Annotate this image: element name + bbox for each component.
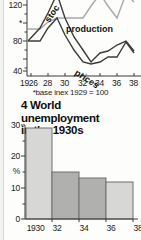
bar-chart-ytick-0: 0 (0, 214, 20, 224)
line-chart-ytick-40: 40 (0, 66, 22, 76)
bar-1932 (26, 128, 52, 219)
line-chart-xtick-34: 34 (95, 78, 104, 88)
bar-chart: 30 20 % 10 0 1930 32 34 36 38 (0, 118, 141, 240)
line-chart-ytick-80: 80 (0, 36, 22, 46)
line-chart-xtick-36: 36 (112, 78, 121, 88)
line-chart-footnote: *base inex 1929 = 100 (0, 88, 141, 97)
bar-chart-ytick-20: 20 (0, 151, 20, 161)
bar-chart-canvas (0, 118, 141, 240)
bar-chart-xtick-36: 36 (101, 223, 121, 233)
line-chart-xtick-28: 28 (43, 78, 52, 88)
bar-1934 (52, 172, 79, 219)
line-chart-xtick-38: 38 (129, 78, 138, 88)
bar-chart-xtick-38: 38 (128, 223, 141, 233)
line-chart-xtick-30: 30 (60, 78, 69, 88)
line-chart-xtick-1926: 1926 (20, 78, 38, 88)
bar-1936 (79, 178, 106, 219)
bar-chart-ytick-30: 30 (0, 120, 20, 130)
line-chart: 120 * 80 40 stoc production prices (0, 0, 141, 78)
bar-chart-xtick-32: 32 (47, 223, 67, 233)
line-chart-xtick-32: 32 (78, 78, 87, 88)
line-chart-ytick-120: 120 (0, 0, 22, 10)
bar-1938 (106, 182, 133, 219)
bar-chart-xtick-1930: 1930 (22, 223, 49, 233)
bar-chart-xtick-34: 34 (74, 223, 94, 233)
line-chart-ytick-base-asterisk: * (0, 18, 22, 28)
bar-chart-y-axis-unit: % (0, 166, 20, 176)
bar-chart-ytick-10: 10 (0, 183, 20, 193)
figure-page: 120 * 80 40 stoc production prices 1926 … (0, 0, 141, 240)
series-label-production: production (66, 24, 113, 34)
